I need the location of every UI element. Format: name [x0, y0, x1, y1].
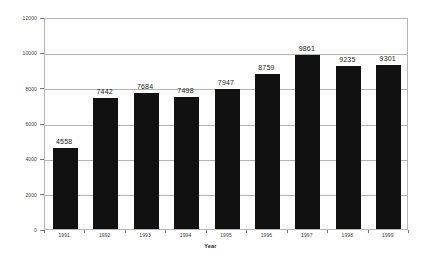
- x-tick-mark: [368, 230, 369, 233]
- x-tick-label: 1994: [180, 232, 192, 238]
- plot-area: [44, 18, 408, 230]
- x-tick-mark: [44, 230, 45, 233]
- bar-value-label: 8759: [258, 64, 274, 72]
- bar: [336, 66, 361, 229]
- bar: [93, 98, 118, 229]
- x-axis-title: Year: [0, 243, 421, 249]
- x-tick-label: 1997: [301, 232, 313, 238]
- bar-value-label: 9301: [380, 55, 396, 63]
- x-tick-mark: [327, 230, 328, 233]
- y-tick-label: 2000: [25, 192, 37, 198]
- bar-value-label: 9235: [339, 56, 355, 64]
- y-tick-label: 10000: [23, 50, 37, 56]
- x-tick-label: 1999: [382, 232, 394, 238]
- bar: [295, 55, 320, 229]
- x-tick-label: 1998: [342, 232, 354, 238]
- x-tick-mark: [84, 230, 85, 233]
- y-axis: 020004000600080001000012000: [0, 0, 44, 261]
- x-tick-mark: [408, 230, 409, 233]
- y-tick-label: 8000: [25, 86, 37, 92]
- y-tick-label: 12000: [23, 15, 37, 21]
- y-tick-label: 6000: [25, 121, 37, 127]
- x-tick-mark: [246, 230, 247, 233]
- bar-value-label: 7684: [137, 83, 153, 91]
- x-tick-label: 1996: [261, 232, 273, 238]
- y-tick-label: 4000: [25, 156, 37, 162]
- x-tick-mark: [125, 230, 126, 233]
- x-tick-label: 1992: [99, 232, 111, 238]
- bar: [255, 74, 280, 229]
- bar-value-label: 7947: [218, 79, 234, 87]
- x-tick-mark: [165, 230, 166, 233]
- x-tick-label: 1995: [220, 232, 232, 238]
- bar: [174, 97, 199, 229]
- bar: [376, 65, 401, 229]
- x-tick-label: 1993: [139, 232, 151, 238]
- bar-value-label: 9861: [299, 45, 315, 53]
- bar-value-label: 7442: [96, 88, 112, 96]
- x-tick-label: 1991: [58, 232, 70, 238]
- bar-value-label: 7498: [177, 87, 193, 95]
- x-tick-mark: [287, 230, 288, 233]
- bar-value-label: 4558: [56, 138, 72, 146]
- bar: [53, 148, 78, 229]
- x-tick-mark: [206, 230, 207, 233]
- bar: [134, 93, 159, 229]
- bar: [215, 89, 240, 229]
- bar-chart: 020004000600080001000012000 199119921993…: [0, 0, 421, 261]
- gridline: [45, 54, 407, 55]
